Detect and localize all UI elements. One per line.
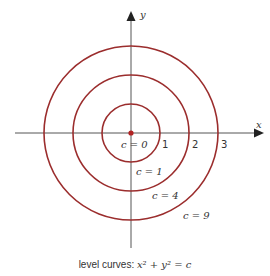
curve-label-c0: c = 0 [121, 139, 148, 150]
caption-equation: x² + y² = c [137, 259, 191, 270]
caption-prefix: level curves: [79, 259, 137, 270]
y-axis-label: y [139, 9, 146, 20]
tick-label-2: 2 [192, 139, 198, 150]
curve-label-c4: c = 4 [152, 190, 179, 201]
y-axis-arrow-icon [127, 11, 136, 21]
x-axis-label: x [256, 119, 262, 130]
curve-label-c9: c = 9 [183, 210, 210, 221]
tick-label-3: 3 [221, 139, 227, 150]
diagram-caption: level curves: x² + y² = c [0, 259, 270, 270]
origin-dot-c0 [128, 130, 133, 135]
tick-label-1: 1 [162, 139, 168, 150]
curve-label-c1: c = 1 [136, 166, 163, 177]
level-curves-diagram: y x 1 2 3 c = 0 c = 1 c = 4 c = 9 [0, 0, 270, 276]
